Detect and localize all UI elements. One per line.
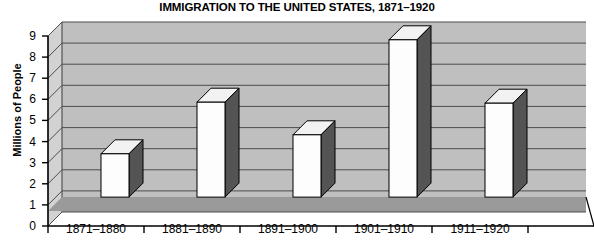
- bar-side-face: [225, 88, 239, 197]
- x-tick-label-1871-1880: 1871–1880: [48, 222, 144, 236]
- y-tick-label-5: 5: [14, 114, 36, 126]
- bar-1891-1900[interactable]: [293, 121, 335, 197]
- y-axis-ticks: [42, 36, 48, 226]
- bar-1871-1880[interactable]: [101, 140, 143, 197]
- y-tick-label-1: 1: [14, 199, 36, 211]
- x-tick-label-1891-1900: 1891–1900: [240, 222, 336, 236]
- x-tick-label-1911-1920: 1911–1920: [432, 222, 528, 236]
- bar-1881-1890[interactable]: [197, 88, 239, 197]
- immigration-bar-chart: IMMIGRATION TO THE UNITED STATES, 1871–1…: [0, 0, 594, 245]
- plot-area: [0, 0, 594, 245]
- bar-front-face: [197, 102, 225, 197]
- y-tick-label-7: 7: [14, 72, 36, 84]
- plot-floor-skew: [48, 197, 586, 211]
- plot-svg: [0, 0, 594, 245]
- y-tick-label-4: 4: [14, 136, 36, 148]
- bar-side-face: [513, 89, 527, 197]
- y-tick-label-6: 6: [14, 93, 36, 105]
- bar-1911-1920[interactable]: [485, 89, 527, 197]
- x-tick-label-1901-1910: 1901–1910: [336, 222, 432, 236]
- y-tick-label-0: 0: [14, 220, 36, 232]
- y-tick-label-3: 3: [14, 157, 36, 169]
- bar-front-face: [389, 40, 417, 197]
- bar-side-face: [321, 121, 335, 197]
- bar-front-face: [101, 154, 129, 197]
- plot-left-wall: [48, 22, 62, 226]
- y-tick-label-2: 2: [14, 178, 36, 190]
- y-tick-label-9: 9: [14, 30, 36, 42]
- x-tick-label-1881-1890: 1881–1890: [144, 222, 240, 236]
- bar-1901-1910[interactable]: [389, 26, 431, 197]
- bar-side-face: [417, 26, 431, 197]
- x-axis-right-skew: [586, 197, 594, 226]
- bar-front-face: [485, 103, 513, 197]
- bar-front-face: [293, 135, 321, 197]
- y-tick-label-8: 8: [14, 51, 36, 63]
